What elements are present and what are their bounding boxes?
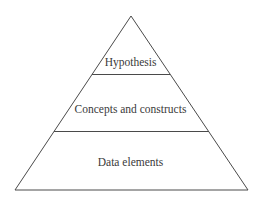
level-label-hypothesis: Hypothesis xyxy=(0,57,261,69)
pyramid-shape xyxy=(0,0,261,201)
level-label-concepts: Concepts and constructs xyxy=(0,104,261,116)
level-label-data-elements: Data elements xyxy=(0,157,261,169)
pyramid-diagram: Hypothesis Concepts and constructs Data … xyxy=(0,0,261,201)
